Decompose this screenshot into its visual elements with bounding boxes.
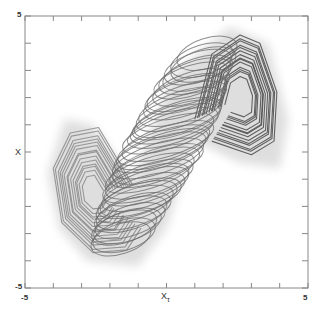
x-min-label: -5	[21, 293, 28, 302]
y-axis-label: X	[15, 147, 21, 157]
y-max-label: 5	[17, 10, 21, 19]
x-axis-label: Xτ	[161, 291, 170, 303]
y-min-label: -5	[15, 282, 22, 291]
x-max-label: 5	[303, 293, 307, 302]
attractor-plot	[0, 0, 323, 310]
